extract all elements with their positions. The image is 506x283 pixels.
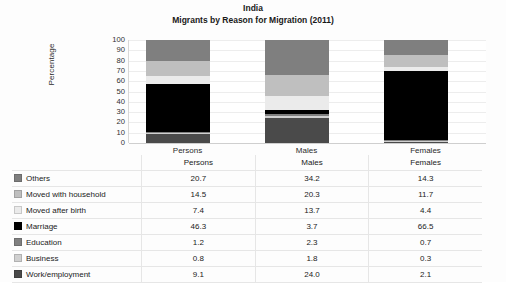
x-label-males: Males [247, 146, 366, 155]
legend-swatch-icon [14, 270, 22, 278]
bar-segment[interactable] [146, 84, 210, 132]
data-table: Persons Males Females Others20.734.214.3… [12, 155, 482, 283]
bar-segment[interactable] [146, 61, 210, 76]
legend-swatch-icon [14, 206, 22, 214]
table-cell-value: 1.8 [255, 251, 369, 267]
table-cell-value: 7.4 [142, 203, 256, 219]
y-tick-20: 20 [100, 118, 125, 126]
y-tick-100: 100 [100, 36, 125, 44]
legend-swatch-icon [14, 238, 22, 246]
table-header-legend-cell [12, 155, 142, 171]
y-tick-0: 0 [100, 139, 125, 147]
bar-segment[interactable] [384, 71, 448, 139]
table-cell-value: 66.5 [369, 219, 482, 235]
bar-segment[interactable] [265, 118, 329, 143]
y-axis-ticks: 1009080706050403020100 [100, 39, 125, 144]
table-cell-value: 1.2 [142, 235, 256, 251]
bar-group-females [367, 40, 486, 143]
legend-cell: Work/employment [12, 267, 142, 283]
stacked-bar[interactable] [146, 40, 210, 143]
table-row: Moved after birth7.413.74.4 [12, 203, 482, 219]
y-tick-70: 70 [100, 67, 125, 75]
table-row: Work/employment9.124.02.1 [12, 267, 482, 283]
legend-swatch-icon [14, 254, 22, 262]
table-body: Others20.734.214.3Moved with household14… [12, 171, 482, 283]
table-cell-value: 34.2 [255, 171, 369, 187]
y-axis-label: Percentage [47, 35, 56, 95]
bar-group-males [248, 40, 367, 143]
table-header-females: Females [369, 155, 482, 171]
bar-segment[interactable] [146, 134, 210, 143]
y-tick-60: 60 [100, 77, 125, 85]
table-cell-value: 11.7 [369, 187, 482, 203]
plot-area [128, 40, 486, 143]
chart-subtitle: Migrants by Reason for Migration (2011) [0, 14, 506, 26]
bar-group-persons [129, 40, 248, 143]
bar-segment[interactable] [384, 55, 448, 67]
legend-swatch-icon [14, 222, 22, 230]
bar-segment[interactable] [265, 40, 329, 75]
legend-label: Education [26, 238, 62, 247]
table-cell-value: 2.3 [255, 235, 369, 251]
legend-cell: Moved with household [12, 187, 142, 203]
table-cell-value: 0.3 [369, 251, 482, 267]
legend-label: Marriage [26, 222, 58, 231]
legend-label: Work/employment [26, 270, 90, 279]
table-header-males: Males [255, 155, 369, 171]
bar-segment[interactable] [265, 75, 329, 96]
plot-wrapper: 1009080706050403020100 [100, 39, 485, 144]
table-row: Moved with household14.520.311.7 [12, 187, 482, 203]
legend-cell: Others [12, 171, 142, 187]
table-cell-value: 24.0 [255, 267, 369, 283]
x-label-persons: Persons [128, 146, 247, 155]
y-tick-40: 40 [100, 98, 125, 106]
y-tick-90: 90 [100, 46, 125, 54]
table-cell-value: 14.5 [142, 187, 256, 203]
y-tick-80: 80 [100, 57, 125, 65]
bar-segment[interactable] [384, 40, 448, 55]
bar-segment[interactable] [146, 40, 210, 61]
bar-segment[interactable] [265, 110, 329, 114]
legend-cell: Business [12, 251, 142, 267]
stacked-bar[interactable] [265, 40, 329, 143]
y-tick-30: 30 [100, 108, 125, 116]
bar-segment[interactable] [265, 116, 329, 118]
table-row: Business0.81.80.3 [12, 251, 482, 267]
table-cell-value: 20.3 [255, 187, 369, 203]
bar-segment[interactable] [265, 114, 329, 116]
bar-segment[interactable] [146, 132, 210, 133]
chart-title-block: India Migrants by Reason for Migration (… [0, 3, 506, 26]
stacked-bar[interactable] [384, 40, 448, 143]
table-cell-value: 3.7 [255, 219, 369, 235]
legend-label: Others [26, 174, 50, 183]
chart-title: India [0, 3, 506, 14]
legend-label: Moved with household [26, 190, 106, 199]
legend-swatch-icon [14, 190, 22, 198]
legend-cell: Education [12, 235, 142, 251]
table-cell-value: 4.4 [369, 203, 482, 219]
table-cell-value: 2.1 [369, 267, 482, 283]
table-header-persons: Persons [142, 155, 256, 171]
table-cell-value: 14.3 [369, 171, 482, 187]
x-label-females: Females [366, 146, 485, 155]
table-header-row: Persons Males Females [12, 155, 482, 171]
table-cell-value: 46.3 [142, 219, 256, 235]
bar-segment[interactable] [146, 76, 210, 84]
bar-segment[interactable] [265, 96, 329, 110]
legend-swatch-icon [14, 174, 22, 182]
gridline-0 [129, 143, 486, 144]
table-cell-value: 20.7 [142, 171, 256, 187]
table-cell-value: 9.1 [142, 267, 256, 283]
bar-segment[interactable] [384, 141, 448, 143]
bar-segment[interactable] [384, 140, 448, 141]
table-row: Others20.734.214.3 [12, 171, 482, 187]
legend-label: Business [26, 254, 58, 263]
table-row: Marriage46.33.766.5 [12, 219, 482, 235]
legend-label: Moved after birth [26, 206, 86, 215]
table-cell-value: 0.8 [142, 251, 256, 267]
table-cell-value: 0.7 [369, 235, 482, 251]
y-tick-50: 50 [100, 88, 125, 96]
bar-segment[interactable] [146, 133, 210, 134]
bar-segment[interactable] [384, 67, 448, 72]
